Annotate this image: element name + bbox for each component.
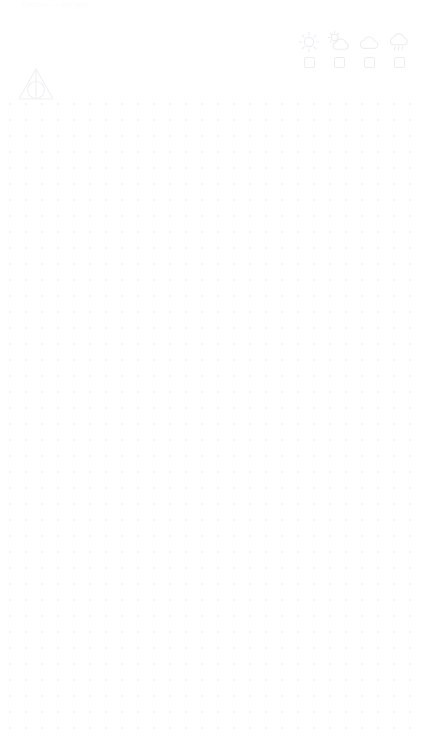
weather-icon-row[interactable]: Sunny Partly Cloudy: [294, 30, 414, 71]
triangle-circle-line-logo: [16, 66, 56, 102]
weather-item-sunny[interactable]: Sunny: [294, 30, 324, 71]
badge-cloudy[interactable]: [364, 57, 375, 68]
badge-rain[interactable]: [394, 57, 405, 68]
weather-item-rain[interactable]: Rain: [384, 30, 414, 71]
canvas-root[interactable]: Untitled — dot grid: [0, 0, 422, 736]
badge-partly-cloudy[interactable]: [334, 57, 345, 68]
sun-behind-cloud-icon[interactable]: [326, 30, 352, 54]
board-title: Untitled — dot grid: [22, 0, 88, 10]
badge-sunny[interactable]: [304, 57, 315, 68]
dot-grid: [0, 0, 422, 736]
weather-item-cloudy[interactable]: Cloudy: [354, 30, 384, 71]
cloud-icon[interactable]: [356, 30, 382, 54]
rain-cloud-icon[interactable]: [386, 30, 412, 54]
sun-icon[interactable]: [296, 30, 322, 54]
weather-item-partly-cloudy[interactable]: Partly Cloudy: [324, 30, 354, 71]
top-toolbar-strip: Untitled — dot grid: [0, 0, 422, 26]
